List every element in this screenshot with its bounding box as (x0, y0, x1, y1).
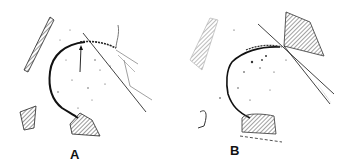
hip-joint-drawing-a (0, 0, 176, 167)
figure-panel-a: A (0, 0, 176, 167)
hip-joint-drawing-b (176, 0, 352, 167)
panel-label-a: A (70, 148, 79, 161)
panel-label-b: B (230, 144, 239, 157)
figure-panel-b: B (176, 0, 352, 167)
